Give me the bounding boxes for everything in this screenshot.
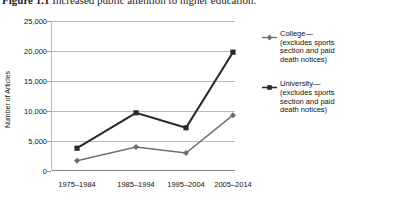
gridline-25000 — [51, 21, 235, 22]
figure-container: Figure 1.1 Increased public attention to… — [0, 0, 401, 203]
y-tick-label: 25,000 — [1, 17, 47, 26]
gridline-5000 — [51, 141, 235, 142]
x-tick-label: 1985–1994 — [117, 180, 155, 189]
chart-legend: College— (excludes sports section and pa… — [262, 30, 398, 126]
gridline-10000 — [51, 111, 235, 112]
y-axis-tick — [47, 111, 51, 112]
gridline-15000 — [51, 81, 235, 82]
x-tick-label: 1975–1984 — [58, 180, 96, 189]
y-tick-label: 5,000 — [1, 137, 47, 146]
legend-line: death notices) — [280, 56, 398, 65]
y-axis-line — [51, 21, 52, 171]
legend-line: death notices) — [280, 106, 398, 115]
y-tick-label: 15,000 — [1, 77, 47, 86]
gridline-20000 — [51, 51, 235, 52]
y-axis-tick-labels: 25,000 20,000 15,000 10,000 5,000 0 — [0, 21, 47, 171]
y-tick-label: 10,000 — [1, 107, 47, 116]
legend-marker-square-icon — [262, 84, 277, 91]
legend-entry-college[interactable]: College— (excludes sports section and pa… — [262, 30, 398, 64]
legend-marker-diamond-icon — [262, 34, 277, 41]
figure-caption-label: Figure 1.1 — [2, 0, 49, 6]
y-tick-label: 20,000 — [1, 47, 47, 56]
plot-area — [51, 21, 235, 171]
x-tick-label: 2005–2014 — [214, 180, 252, 189]
figure-caption: Figure 1.1 Increased public attention to… — [2, 0, 256, 6]
y-axis-tick — [47, 51, 51, 52]
legend-label-college: College— (excludes sports section and pa… — [280, 30, 398, 64]
legend-entry-university[interactable]: University— (excludes sports section and… — [262, 80, 398, 114]
y-axis-tick — [47, 21, 51, 22]
figure-caption-text: Increased public attention to higher edu… — [52, 0, 256, 6]
y-axis-tick — [47, 81, 51, 82]
x-tick-label: 1995–2004 — [167, 180, 205, 189]
legend-label-university: University— (excludes sports section and… — [280, 80, 398, 114]
y-axis-tick — [47, 141, 51, 142]
y-axis-tick — [47, 171, 51, 172]
x-axis-line — [51, 170, 235, 171]
y-tick-label: 0 — [1, 167, 47, 176]
